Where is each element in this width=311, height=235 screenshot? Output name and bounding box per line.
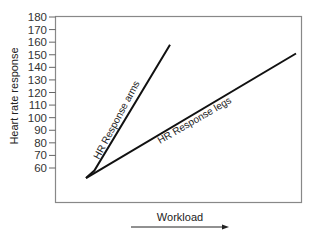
- x-axis-title: Workload: [157, 211, 203, 223]
- y-tick-label: 70: [34, 149, 47, 161]
- y-tick-label: 90: [34, 124, 47, 136]
- y-axis: 60708090100110120130140150160170180: [28, 11, 56, 174]
- y-axis-title: Heart rate response: [8, 47, 20, 144]
- label-legs: HR Response legs: [156, 95, 234, 146]
- y-tick-label: 120: [28, 87, 47, 99]
- y-tick-label: 130: [28, 74, 47, 86]
- y-tick-label: 140: [28, 61, 47, 73]
- y-tick-label: 170: [28, 24, 47, 36]
- y-tick-label: 100: [28, 112, 47, 124]
- y-tick-label: 110: [29, 99, 47, 111]
- y-tick-label: 180: [28, 11, 47, 23]
- y-tick-label: 160: [28, 36, 47, 48]
- arrow-head-icon: [222, 225, 229, 230]
- y-tick-label: 60: [34, 162, 47, 174]
- y-tick-label: 80: [34, 137, 47, 149]
- chart: 60708090100110120130140150160170180 HR R…: [0, 0, 311, 235]
- y-tick-label: 150: [28, 49, 47, 61]
